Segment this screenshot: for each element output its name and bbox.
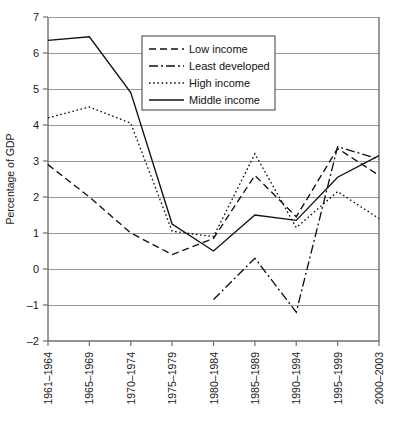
y-axis-ticks: –2–101234567	[27, 11, 48, 347]
x-tick-label: 1985–1989	[249, 352, 261, 405]
legend-label-least-developed: Least developed	[189, 60, 270, 72]
y-tick-label: 7	[33, 11, 39, 23]
y-axis-label: Percentage of GDP	[4, 133, 16, 224]
x-tick-label: 1975–1979	[166, 352, 178, 405]
x-tick-label: 1995–1999	[332, 352, 344, 405]
line-chart: –2–101234567 1961–19641965–19691970–1974…	[0, 0, 400, 424]
series-line-low-income	[48, 148, 379, 254]
y-axis-label-text: Percentage of GDP	[4, 133, 16, 224]
chart-legend: Low incomeLeast developedHigh incomeMidd…	[142, 36, 275, 110]
x-tick-label: 1990–1994	[290, 352, 302, 405]
y-tick-label: –1	[27, 299, 39, 311]
y-tick-label: 1	[33, 227, 39, 239]
y-tick-label: 6	[33, 47, 39, 59]
y-tick-label: 5	[33, 83, 39, 95]
legend-label-high-income: High income	[189, 77, 250, 89]
y-tick-label: 0	[33, 263, 39, 275]
y-tick-label: 3	[33, 155, 39, 167]
chart-container: –2–101234567 1961–19641965–19691970–1974…	[0, 0, 400, 424]
x-tick-label: 1965–1969	[83, 352, 95, 405]
y-tick-label: –2	[27, 335, 39, 347]
series-line-high-income	[48, 107, 379, 237]
x-tick-label: 1970–1974	[125, 352, 137, 405]
x-tick-label: 1980–1984	[208, 352, 220, 405]
x-axis-ticks: 1961–19641965–19691970–19741975–19791980…	[42, 341, 385, 405]
legend-label-middle-income: Middle income	[189, 94, 260, 106]
x-tick-label: 1961–1964	[42, 352, 54, 405]
legend-label-low-income: Low income	[189, 43, 248, 55]
x-tick-label: 2000–2003	[373, 352, 385, 405]
y-tick-label: 2	[33, 191, 39, 203]
y-tick-label: 4	[33, 119, 39, 131]
